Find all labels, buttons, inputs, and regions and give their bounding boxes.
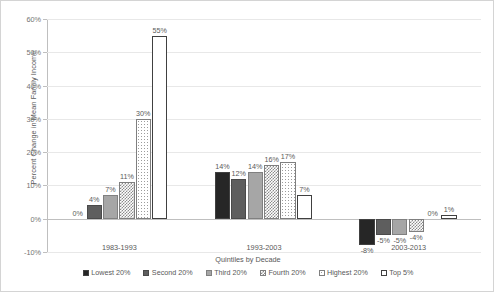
y-tick-label: 30% bbox=[26, 114, 41, 123]
bar bbox=[231, 179, 246, 219]
bar-value-label: 4% bbox=[89, 195, 99, 204]
bar bbox=[280, 162, 295, 219]
legend-item[interactable]: Fourth 20% bbox=[260, 268, 306, 277]
bar-value-label: 30% bbox=[136, 109, 150, 118]
bar bbox=[297, 195, 312, 218]
bar-value-label: -8% bbox=[361, 246, 374, 255]
y-tick-mark bbox=[43, 86, 47, 87]
y-tick-label: 60% bbox=[26, 15, 41, 24]
legend-label: Top 5% bbox=[389, 268, 413, 277]
y-tick-label: 50% bbox=[26, 48, 41, 57]
y-tick-label: 0% bbox=[30, 214, 41, 223]
gridline bbox=[47, 252, 481, 253]
bar bbox=[119, 182, 134, 219]
bar-value-label: 7% bbox=[299, 185, 309, 194]
bar bbox=[136, 119, 151, 219]
bar-value-label: 7% bbox=[105, 185, 115, 194]
bar bbox=[441, 215, 456, 218]
x-category-label: 1983-1993 bbox=[102, 243, 137, 252]
y-axis-line bbox=[47, 19, 48, 252]
y-tick-mark bbox=[43, 185, 47, 186]
y-tick-label: 10% bbox=[26, 181, 41, 190]
bar-value-label: 1% bbox=[444, 205, 454, 214]
gridline bbox=[47, 52, 481, 53]
legend-label: Highest 20% bbox=[327, 268, 368, 277]
bar-chart: Percent Change in Mean Family Income 60%… bbox=[0, 0, 494, 292]
x-axis-title: Quintiles by Decade bbox=[1, 255, 494, 264]
bar bbox=[376, 219, 391, 236]
x-category-label: 1993-2003 bbox=[247, 243, 282, 252]
y-tick-mark bbox=[43, 119, 47, 120]
bar-value-label: 55% bbox=[153, 26, 167, 35]
legend-item[interactable]: Second 20% bbox=[143, 268, 192, 277]
legend-swatch-icon bbox=[260, 270, 266, 276]
bar-value-label: 17% bbox=[281, 152, 295, 161]
legend-item[interactable]: Highest 20% bbox=[319, 268, 368, 277]
bar-value-label: 12% bbox=[232, 169, 246, 178]
legend-label: Third 20% bbox=[214, 268, 247, 277]
bar-value-label: 14% bbox=[215, 162, 229, 171]
legend-item[interactable]: Lowest 20% bbox=[83, 268, 131, 277]
gridline bbox=[47, 152, 481, 153]
y-tick-mark bbox=[43, 152, 47, 153]
bar bbox=[359, 219, 374, 246]
legend-swatch-icon bbox=[206, 270, 212, 276]
bar bbox=[392, 219, 407, 236]
gridline bbox=[47, 19, 481, 20]
x-category-label: 2003-2013 bbox=[391, 243, 426, 252]
y-tick-mark bbox=[43, 52, 47, 53]
gridline bbox=[47, 119, 481, 120]
bar-value-label: 16% bbox=[264, 155, 278, 164]
legend-swatch-icon bbox=[381, 270, 387, 276]
plot-area: 60%50%40%30%20%10%0%-10% 0%4%7%11%30%55%… bbox=[47, 19, 481, 252]
y-tick-mark bbox=[43, 19, 47, 20]
gridline bbox=[47, 86, 481, 87]
legend-swatch-icon bbox=[143, 270, 149, 276]
bar-value-label: 11% bbox=[120, 172, 134, 181]
y-tick-mark bbox=[43, 252, 47, 253]
bar bbox=[264, 165, 279, 218]
bar bbox=[103, 195, 118, 218]
bar-value-label: 0% bbox=[427, 209, 437, 218]
legend-item[interactable]: Third 20% bbox=[206, 268, 247, 277]
bar bbox=[215, 172, 230, 219]
bar bbox=[87, 205, 102, 218]
bar-value-label: -5% bbox=[377, 236, 390, 245]
legend-label: Lowest 20% bbox=[91, 268, 130, 277]
y-tick-mark bbox=[43, 219, 47, 220]
y-tick-label: 20% bbox=[26, 148, 41, 157]
bar bbox=[152, 36, 167, 219]
bar bbox=[409, 219, 424, 232]
legend-label: Fourth 20% bbox=[268, 268, 305, 277]
legend-label: Second 20% bbox=[152, 268, 193, 277]
y-tick-label: 40% bbox=[26, 81, 41, 90]
bar-value-label: -4% bbox=[410, 233, 423, 242]
legend: Lowest 20%Second 20%Third 20%Fourth 20%H… bbox=[1, 268, 494, 277]
bar-value-label: 0% bbox=[73, 209, 83, 218]
bar bbox=[248, 172, 263, 219]
legend-swatch-icon bbox=[319, 270, 325, 276]
legend-item[interactable]: Top 5% bbox=[381, 268, 413, 277]
legend-swatch-icon bbox=[83, 270, 89, 276]
bar-value-label: 14% bbox=[248, 162, 262, 171]
